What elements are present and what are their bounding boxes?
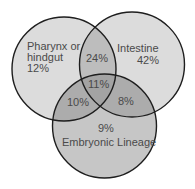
intestine-only-value: 42%: [137, 54, 159, 66]
embryonic-label: Embryonic Lineage: [62, 136, 156, 148]
intestine-embryonic-value: 8%: [118, 95, 134, 107]
pharynx-intestine-value: 24%: [86, 52, 108, 64]
all-three-value: 11%: [88, 78, 109, 90]
intestine-label: Intestine: [117, 42, 159, 54]
venn-diagram: Pharynx or hindgut 12% Intestine 42% 24%…: [0, 0, 195, 189]
pharynx-only-value: 12%: [27, 62, 49, 74]
pharynx-embryonic-value: 10%: [67, 96, 89, 108]
embryonic-only-value: 9%: [98, 122, 114, 134]
